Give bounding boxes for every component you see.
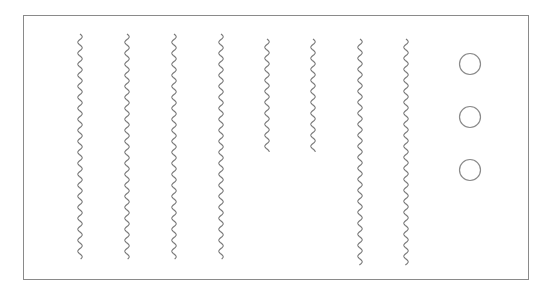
- wavy-line: [78, 34, 82, 259]
- wavy-line: [219, 34, 223, 259]
- circle-shape: [460, 107, 481, 128]
- diagram-canvas: [0, 0, 538, 290]
- wavy-line: [265, 39, 269, 152]
- wavy-line: [125, 34, 129, 259]
- wavy-line: [358, 39, 362, 265]
- wavy-line: [311, 39, 315, 152]
- circle-shape: [460, 54, 481, 75]
- circle-shape: [460, 160, 481, 181]
- wavy-line: [172, 34, 176, 259]
- wavy-lines-group: [78, 34, 408, 265]
- circles-group: [460, 54, 481, 181]
- wavy-line: [404, 39, 408, 265]
- diagram-frame: [24, 16, 529, 280]
